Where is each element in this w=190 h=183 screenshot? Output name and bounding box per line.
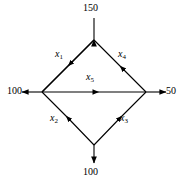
arc-label-x4: x4 [118,49,126,59]
demand-label-bottom: 100 [83,167,98,177]
arc-sub-x4: 4 [122,53,126,61]
arc-sub-x5: 5 [90,76,94,84]
demand-label-left: 100 [7,86,22,96]
arc-label-x1: x1 [55,49,63,59]
demand-label-right: 50 [166,86,176,96]
diagram-canvas [0,0,190,183]
arc-label-x3: x3 [120,113,128,123]
supply-label-top: 150 [83,3,98,13]
arc-sub-x2: 2 [54,117,58,125]
network-flow-diagram: 150 100 50 100 x1 x4 x5 x2 x3 [0,0,190,183]
arc-sub-x3: 3 [124,117,128,125]
arc-label-x2: x2 [50,113,58,123]
arc-sub-x1: 1 [59,53,63,61]
arc-x1-arrow [42,40,94,92]
arc-label-x5: x5 [86,72,94,82]
